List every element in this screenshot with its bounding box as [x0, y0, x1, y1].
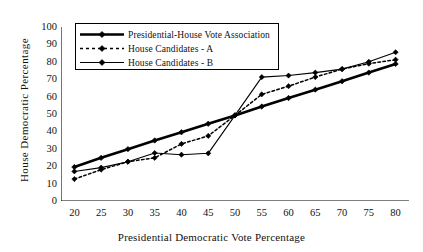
legend-label: Presidential-House Vote Association — [128, 30, 270, 40]
y-tick-label: 60 — [33, 92, 57, 102]
x-tick-label: 30 — [115, 207, 141, 218]
x-tick-label: 80 — [383, 207, 409, 218]
chart-legend: Presidential-House Vote AssociationHouse… — [75, 23, 279, 70]
x-axis-tick-labels: 20253035404550556065707580 — [61, 205, 409, 221]
legend-key-icon — [76, 28, 128, 41]
legend-label: House Candidates - B — [128, 58, 213, 68]
y-tick-label: 10 — [33, 179, 57, 189]
y-tick-label: 0 — [33, 196, 57, 206]
y-tick-label: 30 — [33, 144, 57, 154]
legend-key-icon — [76, 56, 128, 69]
data-point-marker — [206, 133, 211, 138]
x-tick-label: 45 — [195, 207, 221, 218]
x-tick-label: 20 — [61, 207, 87, 218]
legend-label: House Candidates - A — [128, 44, 213, 54]
x-tick-label: 25 — [88, 207, 114, 218]
data-point-marker — [125, 159, 130, 164]
x-tick-label: 75 — [356, 207, 382, 218]
x-tick-label: 65 — [302, 207, 328, 218]
legend-item: House Candidates - B — [76, 56, 278, 69]
legend-item: Presidential-House Vote Association — [76, 28, 278, 41]
data-point-marker — [152, 150, 157, 155]
y-tick-label: 40 — [33, 126, 57, 136]
x-tick-label: 50 — [222, 207, 248, 218]
legend-key-icon — [76, 42, 128, 55]
y-tick-label: 100 — [33, 22, 57, 32]
x-tick-label: 60 — [276, 207, 302, 218]
y-tick-label: 20 — [33, 161, 57, 171]
data-point-marker — [72, 176, 77, 181]
y-axis-tick-labels: 0102030405060708090100 — [29, 27, 57, 201]
data-point-marker — [286, 84, 291, 89]
data-point-marker — [313, 70, 318, 75]
x-tick-label: 70 — [329, 207, 355, 218]
y-tick-label: 90 — [33, 39, 57, 49]
data-point-marker — [393, 57, 398, 62]
data-point-marker — [179, 152, 184, 157]
y-tick-label: 70 — [33, 74, 57, 84]
x-tick-label: 40 — [168, 207, 194, 218]
legend-item: House Candidates - A — [76, 42, 278, 55]
y-tick-label: 50 — [33, 109, 57, 119]
x-tick-label: 35 — [142, 207, 168, 218]
y-tick-label: 80 — [33, 57, 57, 67]
data-point-marker — [393, 50, 398, 55]
data-point-marker — [339, 67, 344, 72]
x-tick-label: 55 — [249, 207, 275, 218]
chart-figure: House Democratic Percentage 010203040506… — [0, 0, 423, 252]
data-point-marker — [179, 141, 184, 146]
data-point-marker — [72, 169, 77, 174]
data-point-marker — [152, 155, 157, 160]
x-axis-title: Presidential Democratic Vote Percentage — [0, 231, 423, 243]
data-point-marker — [286, 73, 291, 78]
